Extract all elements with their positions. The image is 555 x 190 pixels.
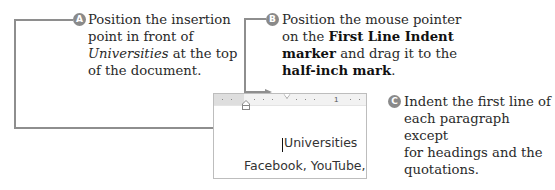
callout-c: C Indent the first line of each paragrap…	[388, 93, 555, 178]
document-snippet: 1 Universities Facebook, YouTube,	[213, 93, 367, 179]
leader-line-a-top	[14, 19, 73, 21]
callout-badge-c: C	[388, 95, 401, 108]
ruler-margin-area	[214, 94, 244, 105]
ruler-tick	[296, 99, 297, 100]
ruler-tick	[231, 99, 232, 100]
callout-b-line-3: marker and drag it to the	[282, 45, 466, 62]
document-line-facebook[interactable]: Facebook, YouTube,	[244, 158, 365, 173]
callout-a-italic-term: Universities	[88, 46, 168, 61]
callout-c-line-1: Indent the first line of	[404, 93, 555, 110]
ruler-tick	[314, 99, 315, 100]
callout-badge-b: B	[266, 13, 279, 26]
leader-line-b-top	[244, 18, 266, 20]
callout-a-line-3: Universities at the top	[88, 45, 243, 62]
callout-badge-a: A	[73, 13, 86, 26]
leader-line-b-vertical	[244, 18, 246, 93]
hanging-indent-marker-icon[interactable]	[242, 100, 250, 110]
ruler-tick	[272, 99, 273, 100]
callout-a: A Position the insertion point in front …	[73, 11, 243, 79]
callout-b-line-4: half-inch mark.	[282, 62, 466, 79]
ruler-tick	[359, 99, 360, 100]
callout-c-line-2: each paragraph except	[404, 110, 555, 144]
first-line-indent-marker-icon[interactable]	[283, 93, 291, 99]
callout-b-line-1: Position the mouse pointer	[282, 11, 466, 28]
leader-line-a-vertical	[14, 19, 16, 129]
callout-b: B Position the mouse pointer on the Firs…	[266, 11, 466, 79]
ruler-tick	[222, 99, 223, 100]
callout-c-line-4: quotations.	[404, 161, 555, 178]
callout-a-line-1: Position the insertion	[88, 11, 243, 28]
insertion-point-cursor	[282, 138, 283, 152]
callout-c-line-3: for headings and the	[404, 144, 555, 161]
callout-a-line-2: point in front of	[88, 28, 243, 45]
ruler-tick	[254, 99, 255, 100]
ruler-number: 1	[334, 94, 338, 105]
ruler-tick	[263, 99, 264, 100]
ruler-tick	[350, 99, 351, 100]
callout-a-line-4: of the document.	[88, 62, 243, 79]
ruler-tick	[305, 99, 306, 100]
document-line-universities[interactable]: Universities	[284, 135, 357, 150]
callout-b-line-2: on the First Line Indent	[282, 28, 466, 45]
